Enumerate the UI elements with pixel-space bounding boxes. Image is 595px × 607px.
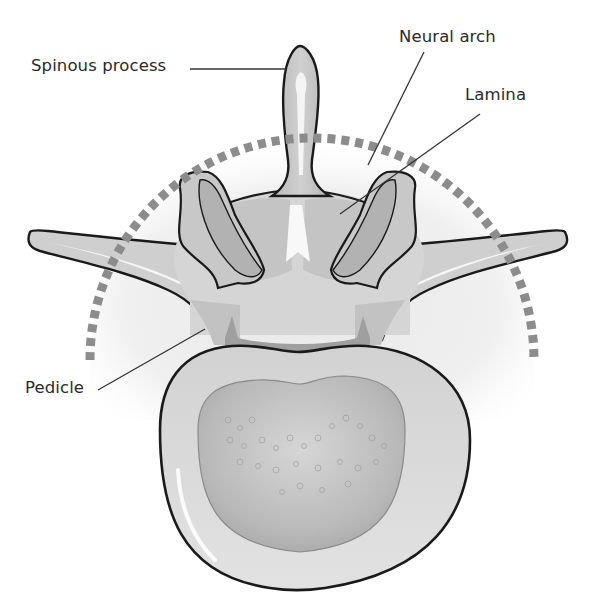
label-lamina: Lamina (465, 85, 526, 104)
label-pedicle: Pedicle (25, 378, 84, 397)
vertebral-body (160, 346, 470, 591)
label-spinous-process: Spinous process (31, 56, 166, 75)
leader-neural-arch (368, 52, 424, 165)
label-neural-arch: Neural arch (399, 27, 496, 46)
